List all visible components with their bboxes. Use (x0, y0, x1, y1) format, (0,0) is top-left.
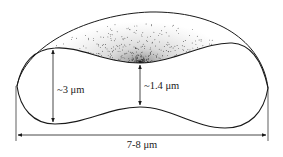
stipple-dot (102, 72, 103, 73)
stipple-dot (142, 76, 143, 77)
stipple-dot (115, 49, 116, 50)
stipple-dot (131, 40, 132, 41)
stipple-dot (182, 69, 183, 70)
stipple-dot (152, 63, 153, 64)
stipple-dot (143, 64, 144, 65)
stipple-dot (139, 62, 140, 63)
stipple-dot (189, 51, 190, 52)
stipple-dot (124, 45, 125, 46)
stipple-dot (212, 40, 213, 41)
stipple-dot (63, 78, 64, 79)
stipple-dot (202, 45, 203, 46)
stipple-dot (143, 75, 144, 76)
stipple-dot (58, 65, 59, 66)
stipple-dot (150, 47, 151, 48)
stipple-dot (142, 61, 143, 62)
stipple-dot (110, 94, 111, 95)
stipple-dot (186, 51, 187, 52)
stipple-dot (108, 55, 109, 56)
stipple-dot (102, 62, 103, 63)
stipple-dot (132, 83, 133, 84)
stipple-dot (129, 66, 130, 67)
stipple-dot (174, 46, 175, 47)
stipple-dot (151, 65, 152, 66)
stipple-dot (212, 52, 213, 53)
stipple-dot (152, 42, 153, 43)
stipple-dot (159, 49, 160, 50)
stipple-dot (105, 67, 106, 68)
stipple-dot (114, 64, 115, 65)
stipple-dot (79, 62, 80, 63)
stipple-dot (150, 53, 151, 54)
stipple-dot (137, 67, 138, 68)
stipple-dot (170, 67, 171, 68)
stipple-dot (139, 65, 140, 66)
stipple-dot (134, 64, 135, 65)
stipple-dot (213, 79, 214, 80)
stipple-dot (114, 72, 115, 73)
stipple-dot (195, 91, 196, 92)
stipple-dot (68, 52, 69, 53)
stipple-dot (136, 60, 137, 61)
stipple-dot (140, 64, 141, 65)
stipple-dot (209, 44, 210, 45)
stipple-dot (174, 97, 175, 98)
stipple-dot (121, 67, 122, 68)
stipple-dot (154, 39, 155, 40)
stipple-dot (118, 51, 119, 52)
stipple-dot (151, 25, 152, 26)
center-thickness-label: ~1.4 μm (144, 80, 179, 91)
stipple-dot (150, 36, 151, 37)
stipple-dot (128, 67, 129, 68)
stipple-dot (178, 33, 179, 34)
stipple-dot (212, 58, 213, 59)
stipple-dot (228, 60, 229, 61)
stipple-dot (100, 37, 101, 38)
stipple-dot (110, 85, 111, 86)
stipple-dot (190, 54, 191, 55)
stipple-dot (143, 69, 144, 70)
stipple-dot (175, 65, 176, 66)
stipple-dot (71, 39, 72, 40)
stipple-dot (197, 62, 198, 63)
stipple-dot (146, 78, 147, 79)
stipple-dot (198, 79, 199, 80)
stipple-dot (166, 50, 167, 51)
stipple-dot (171, 46, 172, 47)
stipple-dot (148, 97, 149, 98)
stipple-dot (137, 65, 138, 66)
stipple-dot (111, 40, 112, 41)
stipple-dot (136, 30, 137, 31)
stipple-dot (167, 65, 168, 66)
stipple-dot (139, 60, 140, 61)
stipple-dot (160, 58, 161, 59)
stipple-dot (195, 69, 196, 70)
stipple-dot (99, 60, 100, 61)
stipple-dot (132, 55, 133, 56)
stipple-dot (112, 51, 113, 52)
stipple-dot (93, 53, 94, 54)
stipple-dot (164, 26, 165, 27)
stipple-dot (105, 44, 106, 45)
stipple-dot (136, 25, 137, 26)
stipple-dot (183, 41, 184, 42)
stipple-dot (146, 64, 147, 65)
stipple-dot (133, 59, 134, 60)
stipple-dot (192, 29, 193, 30)
stipple-dot (190, 49, 191, 50)
stipple-dot (136, 52, 137, 53)
stipple-dot (85, 35, 86, 36)
stipple-dot (213, 66, 214, 67)
stipple-dot (121, 56, 122, 57)
stipple-dot (163, 64, 164, 65)
stipple-dot (127, 69, 128, 70)
stipple-dot (96, 53, 97, 54)
stipple-dot (64, 63, 65, 64)
stipple-dot (132, 57, 133, 58)
stipple-dot (129, 67, 130, 68)
stipple-dot (110, 54, 111, 55)
stipple-dot (151, 24, 152, 25)
stipple-dot (131, 69, 132, 70)
stipple-dot (64, 62, 65, 63)
stipple-dot (136, 48, 137, 49)
